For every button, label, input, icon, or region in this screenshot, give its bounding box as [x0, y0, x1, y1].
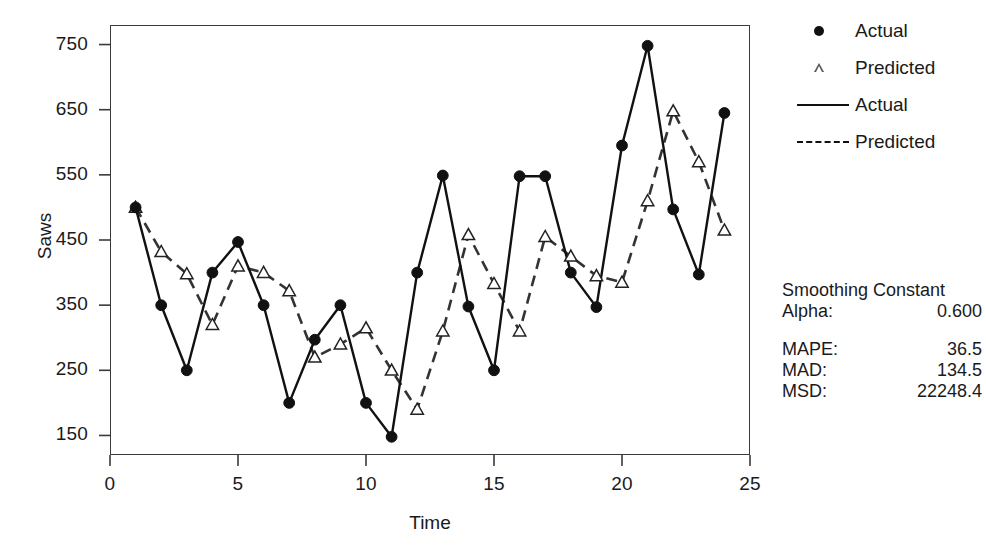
y-tick-label: 750: [26, 33, 88, 55]
y-tick-label: 150: [26, 423, 88, 445]
legend-item-actual-marker: Actual: [795, 12, 985, 49]
alpha-row: Alpha: 0.600: [782, 301, 982, 322]
x-tick-label: 15: [472, 473, 516, 495]
legend-item-predicted-line: Predicted: [795, 123, 985, 160]
chart-page: 150250350450550650750 0510152025 Saws Ti…: [0, 0, 986, 548]
x-tick-label: 25: [728, 473, 772, 495]
plot-area: [110, 25, 750, 455]
statistics-panel: Smoothing Constant Alpha: 0.600 MAPE: 36…: [782, 280, 982, 402]
mape-value: 36.5: [947, 339, 982, 360]
mad-label: MAD:: [782, 360, 827, 381]
mad-row: MAD: 134.5: [782, 360, 982, 381]
alpha-value: 0.600: [937, 301, 982, 322]
legend-label: Actual: [855, 94, 908, 116]
legend-label: Predicted: [855, 57, 935, 79]
x-axis-title: Time: [330, 512, 530, 534]
y-tick-label: 650: [26, 98, 88, 120]
x-tick-label: 10: [344, 473, 388, 495]
smoothing-constant-heading: Smoothing Constant: [782, 280, 982, 301]
x-axis-ticks: [110, 455, 750, 466]
stats-spacer: [782, 322, 982, 339]
open-triangle-marker-icon: [795, 49, 851, 86]
y-axis-title: Saws: [34, 181, 56, 291]
legend-item-predicted-marker: Predicted: [795, 49, 985, 86]
x-tick-label: 5: [216, 473, 260, 495]
legend-label: Predicted: [855, 131, 935, 153]
msd-label: MSD:: [782, 381, 827, 402]
legend-item-actual-line: Actual: [795, 86, 985, 123]
filled-circle-marker-icon: [795, 12, 851, 49]
y-axis-ticks: [99, 45, 110, 436]
legend-label: Actual: [855, 20, 908, 42]
alpha-label: Alpha:: [782, 301, 833, 322]
y-tick-label: 350: [26, 293, 88, 315]
solid-line-icon: [795, 86, 851, 123]
mape-label: MAPE:: [782, 339, 838, 360]
mape-row: MAPE: 36.5: [782, 339, 982, 360]
mad-value: 134.5: [937, 360, 982, 381]
msd-row: MSD: 22248.4: [782, 381, 982, 402]
dashed-line-icon: [795, 123, 851, 160]
y-tick-label: 250: [26, 358, 88, 380]
chart-legend: Actual Predicted Actual Predicted: [795, 12, 985, 160]
x-tick-label: 0: [88, 473, 132, 495]
msd-value: 22248.4: [917, 381, 982, 402]
x-tick-label: 20: [600, 473, 644, 495]
